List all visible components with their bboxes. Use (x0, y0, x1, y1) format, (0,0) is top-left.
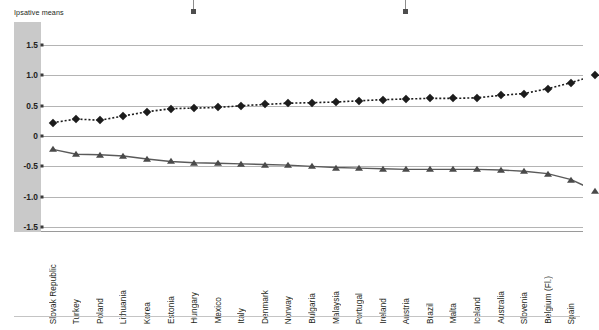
data-point-lower-series-4 (143, 156, 151, 162)
data-point-lower-series-0 (49, 146, 57, 152)
data-point-lower-series-18 (473, 166, 481, 172)
plot-area (41, 45, 583, 227)
data-point-lower-series-20 (520, 168, 528, 174)
x-axis-label-18: Iceland (473, 297, 482, 324)
data-point-lower-series-9 (261, 161, 269, 167)
x-axis-label-5: Estonia (167, 296, 176, 324)
x-axis-label-20: Slovenia (520, 292, 529, 324)
x-axis-label-4: Korea (143, 302, 152, 324)
line-upper-series (53, 75, 583, 122)
data-point-lower-series-3 (119, 153, 127, 159)
y-tick-dot (41, 165, 44, 168)
x-axis-label-19: Australia (497, 291, 506, 324)
y-tick-label-0.5: 0.5 (8, 101, 38, 111)
top-arrow-marker-1 (190, 0, 197, 16)
data-point-lower-series-16 (426, 166, 434, 172)
arrow-head-icon (191, 9, 196, 14)
y-tick-label--1.0: -1.0 (8, 192, 38, 202)
y-tick-dot (41, 44, 44, 47)
data-point-lower-series-11 (308, 163, 316, 169)
y-tick-label-1.5: 1.5 (8, 40, 38, 50)
data-point-lower-series-14 (379, 165, 387, 171)
x-axis-label-9: Denmark (261, 290, 270, 324)
y-tick-dot (41, 195, 44, 198)
y-tick-label--0.5: -0.5 (8, 161, 38, 171)
x-axis-label-0: Slovak Republic (49, 264, 58, 324)
data-point-lower-series-13 (355, 165, 363, 171)
data-point-lower-series-22 (567, 176, 575, 182)
data-point-lower-series-10 (284, 162, 292, 168)
top-arrow-marker-2 (402, 0, 409, 16)
data-point-lower-series-8 (237, 161, 245, 167)
series-lines (41, 45, 583, 227)
x-axis-label-11: Bulgaria (308, 293, 317, 324)
data-point-lower-series-19 (497, 167, 505, 173)
data-point-lower-series-17 (449, 166, 457, 172)
data-point-lower-series-5 (167, 158, 175, 164)
x-axis-label-16: Brazil (426, 303, 435, 324)
x-axis-label-3: Lithuania (119, 290, 128, 324)
footer-divider (14, 316, 580, 317)
y-axis-title: Ipsative means (14, 8, 64, 17)
data-point-lower-series-12 (332, 164, 340, 170)
data-point-upper-series-23 (591, 71, 599, 79)
x-axis-labels: Slovak RepublicTurkeyPolandLithuaniaKore… (41, 232, 583, 324)
y-tick-label-1.0: 1.0 (8, 70, 38, 80)
y-tick-dot (41, 135, 44, 138)
data-point-lower-series-23 (591, 187, 599, 193)
x-axis-label-22: Spain (567, 303, 576, 324)
x-axis-label-17: Malta (449, 303, 458, 324)
x-axis-label-1: Turkey (72, 299, 81, 324)
data-point-lower-series-1 (72, 151, 80, 157)
y-tick-label--1.5: -1.5 (8, 222, 38, 232)
data-point-lower-series-2 (96, 151, 104, 157)
x-axis-label-10: Norway (284, 296, 293, 324)
data-point-lower-series-15 (402, 166, 410, 172)
x-axis-label-6: Hungary (190, 292, 199, 324)
data-point-lower-series-21 (544, 170, 552, 176)
data-point-lower-series-6 (190, 159, 198, 165)
gridline--1.5 (41, 227, 583, 228)
x-axis-label-13: Portugal (355, 293, 364, 324)
x-axis-label-15: Austria (402, 298, 411, 324)
y-tick-label-0: 0 (8, 131, 38, 141)
x-axis-label-7: Mexico (214, 297, 223, 324)
data-point-lower-series-7 (214, 160, 222, 166)
y-tick-dot (41, 226, 44, 229)
y-tick-dot (41, 74, 44, 77)
x-axis-label-14: Ireland (379, 298, 388, 324)
x-axis-label-2: Poland (96, 298, 105, 324)
x-axis-label-12: Malaysia (332, 291, 341, 324)
y-tick-dot (41, 104, 44, 107)
arrow-head-icon (403, 9, 408, 14)
